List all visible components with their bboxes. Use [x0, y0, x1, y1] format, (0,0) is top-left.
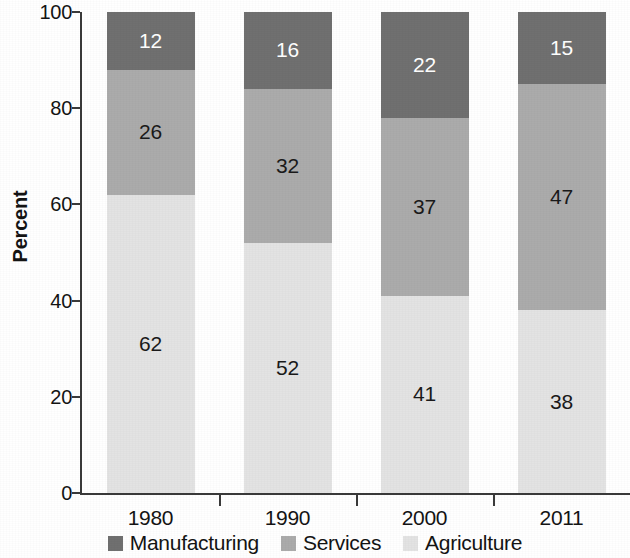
bar-value-label: 52 [276, 356, 299, 380]
y-axis-tick-mark [72, 11, 80, 13]
x-axis-tick-label-2011: 2011 [502, 506, 622, 530]
bar-segment-manufacturing-2000: 22 [381, 12, 469, 118]
bar-value-label: 37 [413, 195, 436, 219]
bar-segment-services-2011: 47 [518, 84, 606, 310]
bar-1980: 622612 [107, 12, 195, 493]
bar-value-label: 16 [276, 38, 299, 62]
x-axis-tick-label-1990: 1990 [228, 506, 348, 530]
bar-value-label: 26 [139, 120, 162, 144]
y-axis-tick-mark [72, 203, 80, 205]
y-axis-tick-mark [72, 300, 80, 302]
bar-segment-services-2000: 37 [381, 118, 469, 296]
bar-value-label: 15 [550, 36, 573, 60]
bar-segment-agriculture-2000: 41 [381, 296, 469, 493]
bar-value-label: 47 [550, 185, 573, 209]
y-axis-tick-label: 0 [20, 482, 72, 505]
x-axis-tick-mark [219, 495, 221, 506]
legend-label: Services [303, 531, 381, 555]
x-axis-tick-mark [356, 495, 358, 506]
bar-segment-services-1990: 32 [244, 89, 332, 243]
legend-swatch-icon [281, 536, 296, 551]
bar-segment-services-1980: 26 [107, 70, 195, 195]
y-axis-title: Percent [9, 177, 32, 277]
bar-segment-agriculture-2011: 38 [518, 310, 606, 493]
y-axis-tick-label: 20 [20, 385, 72, 408]
bar-segment-agriculture-1980: 62 [107, 195, 195, 493]
legend-item-agriculture[interactable]: Agriculture [403, 531, 522, 555]
y-axis-tick-mark [72, 396, 80, 398]
bar-value-label: 12 [139, 29, 162, 53]
x-axis-tick-label-1980: 1980 [91, 506, 211, 530]
bar-segment-manufacturing-2011: 15 [518, 12, 606, 84]
bar-value-label: 41 [413, 382, 436, 406]
plot-area: 622612523216413722384715 [82, 12, 630, 493]
bar-segment-manufacturing-1990: 16 [244, 12, 332, 89]
y-axis-tick-mark [72, 107, 80, 109]
bar-segment-manufacturing-1980: 12 [107, 12, 195, 70]
legend-item-manufacturing[interactable]: Manufacturing [108, 531, 259, 555]
x-axis-tick-label-2000: 2000 [365, 506, 485, 530]
bar-value-label: 32 [276, 154, 299, 178]
x-axis-line [80, 493, 630, 495]
bar-value-label: 62 [139, 332, 162, 356]
legend-label: Manufacturing [130, 531, 259, 555]
stacked-bar-chart: Percent 020406080100 6226125232164137223… [0, 0, 630, 558]
legend-swatch-icon [403, 536, 418, 551]
legend-item-services[interactable]: Services [281, 531, 381, 555]
x-axis-tick-mark [493, 495, 495, 506]
bar-1990: 523216 [244, 12, 332, 493]
y-axis-tick-label: 80 [20, 97, 72, 120]
y-axis-tick-label: 60 [20, 193, 72, 216]
bar-value-label: 38 [550, 390, 573, 414]
bar-value-label: 22 [413, 53, 436, 77]
bar-segment-agriculture-1990: 52 [244, 243, 332, 493]
y-axis-tick-label: 40 [20, 289, 72, 312]
y-axis-tick-label: 100 [20, 1, 72, 24]
bar-2011: 384715 [518, 12, 606, 493]
bar-2000: 413722 [381, 12, 469, 493]
y-axis-tick-mark [72, 492, 80, 494]
chart-legend: ManufacturingServicesAgriculture [0, 531, 630, 555]
legend-swatch-icon [108, 536, 123, 551]
legend-label: Agriculture [425, 531, 522, 555]
